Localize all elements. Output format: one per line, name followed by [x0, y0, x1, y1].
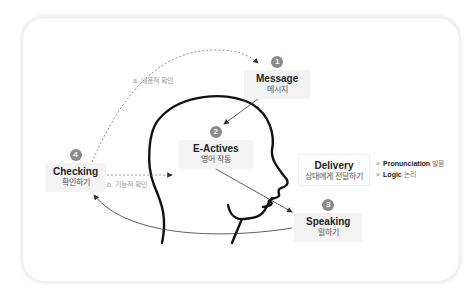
- node-box: Message 메시지: [244, 70, 310, 99]
- cross-icon: ×: [376, 171, 380, 178]
- neck-outline: [232, 219, 242, 243]
- node-box: Checking 확인하기: [45, 163, 106, 192]
- delivery-subtitle: 상대에게 전달하기: [299, 172, 369, 182]
- delivery-box: Delivery 상대에게 전달하기: [298, 154, 370, 186]
- edge-label-a: a. 내용적 확인: [133, 75, 173, 85]
- node-subtitle: 메시지: [256, 85, 298, 95]
- node-box: E-Actives 영어 작동: [179, 140, 253, 169]
- head-outline: [149, 96, 287, 243]
- node-e-actives: 2 E-Actives 영어 작동: [179, 126, 253, 169]
- node-subtitle: 말하기: [306, 228, 350, 238]
- criteria-label: Pronunciation: [383, 160, 430, 167]
- node-title: Message: [256, 73, 298, 85]
- step-badge: 3: [322, 199, 334, 211]
- criteria-label-kr: 발음: [432, 160, 444, 167]
- delivery-criteria: ×Pronunciation 발음 ×Logic 논리: [376, 158, 444, 180]
- criteria-label: Logic: [383, 171, 402, 178]
- node-title: Checking: [53, 166, 98, 178]
- step-badge: 1: [271, 56, 283, 68]
- jaw-outline: [228, 198, 272, 219]
- node-title: Speaking: [306, 216, 350, 228]
- delivery-title: Delivery: [299, 160, 369, 172]
- cross-icon: ×: [376, 160, 380, 167]
- node-title: E-Actives: [193, 143, 239, 155]
- node-subtitle: 영어 작동: [193, 155, 239, 165]
- step-badge: 4: [70, 149, 82, 161]
- node-box: Speaking 말하기: [294, 213, 362, 242]
- edge-label-b: b. 기능적 확인: [107, 179, 147, 189]
- criteria-item: ×Pronunciation 발음: [376, 158, 444, 169]
- node-speaking: 3 Speaking 말하기: [294, 199, 362, 242]
- node-message: 1 Message 메시지: [244, 56, 310, 99]
- node-checking: 4 Checking 확인하기: [45, 149, 106, 192]
- step-badge: 2: [210, 126, 222, 138]
- node-subtitle: 확인하기: [53, 178, 98, 188]
- criteria-item: ×Logic 논리: [376, 169, 444, 180]
- arrow-eactives-to-speaking: [214, 168, 292, 212]
- criteria-label-kr: 논리: [404, 171, 416, 178]
